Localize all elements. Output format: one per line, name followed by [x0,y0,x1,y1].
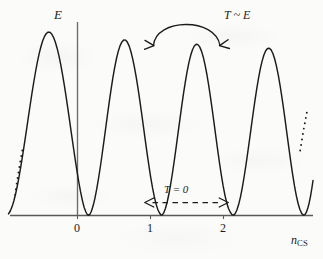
thermal-transition-label: T ~ E [224,9,250,21]
thermal-transition-arc-arrow [154,24,221,45]
periodic-potential-curve [9,32,314,215]
right-continuation-dots [299,112,307,152]
x-tick-label-0: 0 [74,221,80,236]
x-axis-label: nCS [291,234,308,248]
plot-canvas [0,0,323,259]
x-tick-label-2: 2 [220,221,226,236]
x-axis-label-subscript: CS [297,238,308,248]
left-continuation-dots [14,150,23,196]
instanton-tunneling-label: T = 0 [164,184,188,195]
x-tick-label-1: 1 [147,221,153,236]
y-axis-label: E [54,8,62,21]
potential-energy-figure: E T ~ E T = 0 0 1 2 nCS [0,0,323,259]
